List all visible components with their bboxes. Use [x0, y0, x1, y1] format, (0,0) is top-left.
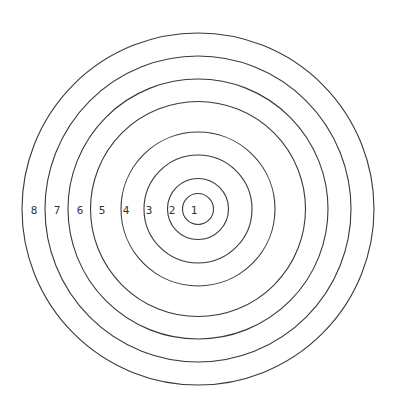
rings-group — [22, 33, 374, 385]
ring-labels-group: 12345678 — [31, 204, 198, 217]
ring-label-6: 6 — [77, 204, 84, 217]
ring-1 — [183, 194, 214, 225]
ring-2 — [168, 179, 229, 240]
concentric-rings-diagram: 12345678 — [0, 0, 394, 411]
ring-label-2: 2 — [169, 204, 176, 217]
ring-label-7: 7 — [54, 204, 61, 217]
ring-label-3: 3 — [146, 204, 153, 217]
ring-label-5: 5 — [99, 204, 106, 217]
ring-6 — [68, 79, 328, 339]
ring-3 — [144, 155, 252, 263]
ring-label-1: 1 — [191, 204, 198, 217]
ring-label-8: 8 — [31, 204, 38, 217]
ring-8 — [22, 33, 374, 385]
ring-label-4: 4 — [123, 204, 130, 217]
